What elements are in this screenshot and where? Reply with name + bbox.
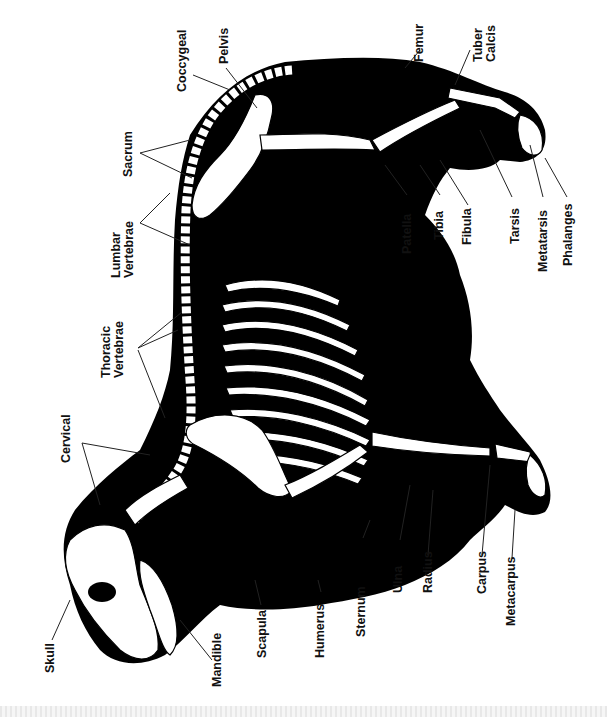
label-sacrum: Sacrum <box>122 131 135 177</box>
label-lumbar-line2: Vertebrae <box>123 221 136 278</box>
label-coccygeal: Coccygeal <box>176 29 189 92</box>
label-mandible: Mandible <box>211 633 224 687</box>
label-lumbar-vertebrae: Lumbar Vertebrae <box>110 221 136 278</box>
label-scapula: Scapula <box>256 610 269 658</box>
label-sternum: Sternum <box>355 586 368 637</box>
label-radius: Radius <box>422 551 435 593</box>
label-tarsis: Tarsis <box>509 208 522 244</box>
label-metacarpus: Metacarpus <box>505 557 518 626</box>
label-phalanges: Phalanges <box>562 203 575 266</box>
label-tibia: Tibia <box>433 211 446 240</box>
label-humerus: Humerus <box>314 604 327 658</box>
label-carpus: Carpus <box>476 551 489 594</box>
label-thoracic-line2: Vertebrae <box>113 321 126 378</box>
label-thoracic-vertebrae: Thoracic Vertebrae <box>100 321 126 378</box>
eye-socket <box>88 582 116 602</box>
label-tuber-calcis: Tuber Calcis <box>472 25 498 62</box>
label-pelvis: Pelvis <box>218 28 231 64</box>
label-tuber-line2: Calcis <box>485 25 498 62</box>
label-femur: Femur <box>413 24 426 62</box>
label-metatarsis: Metatarsis <box>537 210 550 272</box>
label-patella: Patella <box>401 214 414 254</box>
label-ulna: Ulna <box>392 566 405 593</box>
scan-edge-strip <box>0 706 607 717</box>
label-fibula: Fibula <box>461 208 474 245</box>
label-skull: Skull <box>44 643 57 673</box>
label-cervical: Cervical <box>60 414 73 463</box>
